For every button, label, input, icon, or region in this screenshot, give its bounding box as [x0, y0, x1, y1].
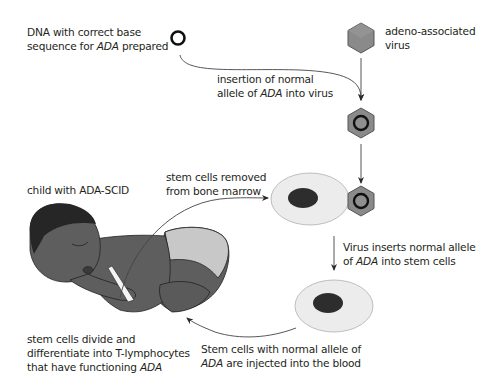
stem-removed-label: stem cells removed from bone marrow	[166, 170, 266, 198]
virus-inserts-line2: of ADA into stem cells	[343, 254, 475, 268]
differentiate-line2: differentiate into T-lymphocytes	[27, 346, 190, 360]
text: of	[343, 255, 356, 267]
dna-label-line2: sequence for ADA prepared	[27, 39, 168, 53]
insertion-label: insertion of normal allele of ADA into v…	[217, 72, 333, 100]
virus-hexagon-icon	[348, 23, 374, 53]
differentiate-line1: stem cells divide and	[27, 332, 190, 346]
stem-removed-line1: stem cells removed	[166, 170, 266, 184]
child-label: child with ADA-SCID	[27, 183, 129, 197]
text: that have functioning	[27, 361, 140, 373]
virus-label-line1: adeno-associated	[385, 24, 475, 38]
dna-label-line1: DNA with correct base	[27, 25, 168, 39]
text: into stem cells	[378, 255, 455, 267]
text: allele of	[217, 87, 260, 99]
gene-name: ADA	[140, 361, 162, 373]
recombinant-virus-icon	[348, 108, 374, 138]
gene-name: ADA	[97, 40, 119, 52]
text: prepared	[119, 40, 169, 52]
text: are injected into the blood	[223, 357, 361, 369]
stem-cell-upper-icon	[271, 173, 349, 225]
dna-label: DNA with correct base sequence for ADA p…	[27, 25, 168, 53]
child-illustration	[30, 203, 229, 312]
differentiate-line3: that have functioning ADA	[27, 360, 190, 374]
stem-removed-line2: from bone marrow	[166, 184, 266, 198]
virus-label-line2: virus	[385, 38, 475, 52]
virus-inserts-line1: Virus inserts normal allele	[343, 240, 475, 254]
injection-curve-arrow	[187, 318, 296, 337]
injected-line1: Stem cells with normal allele of	[201, 342, 361, 356]
gene-name: ADA	[260, 87, 282, 99]
virus-inserts-label: Virus inserts normal allele of ADA into …	[343, 240, 475, 268]
insertion-label-line1: insertion of normal	[217, 72, 333, 86]
injected-label: Stem cells with normal allele of ADA are…	[201, 342, 361, 370]
recombinant-virus-attached-icon	[348, 186, 374, 216]
insertion-label-line2: allele of ADA into virus	[217, 86, 333, 100]
virus-label: adeno-associated virus	[385, 24, 475, 52]
gene-name: ADA	[201, 357, 223, 369]
text: sequence for	[27, 40, 97, 52]
dna-ring-icon	[172, 32, 185, 45]
gene-name: ADA	[356, 255, 378, 267]
injected-line2: ADA are injected into the blood	[201, 356, 361, 370]
text: into virus	[282, 87, 333, 99]
differentiate-label: stem cells divide and differentiate into…	[27, 332, 190, 374]
child-label-line1: child with ADA-SCID	[27, 183, 129, 197]
stem-cell-lower-icon	[295, 280, 373, 332]
